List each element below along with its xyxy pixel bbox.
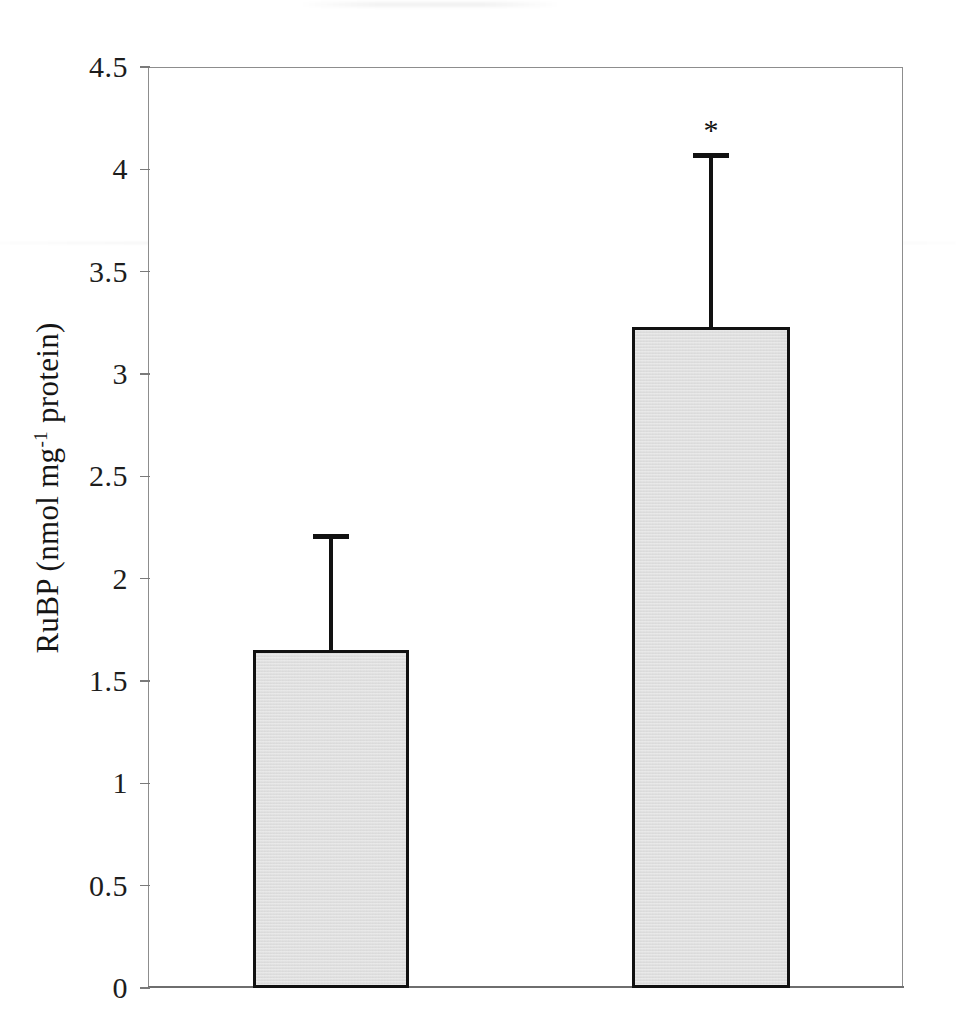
y-axis-tick-label: 2.5 [8,461,128,491]
y-axis-tick [140,66,150,68]
y-axis-tick [140,373,150,375]
y-axis-tick [140,476,150,478]
y-axis-tick-label: 4 [8,154,128,184]
y-axis-tick [140,578,150,580]
significance-marker-2: * [691,115,731,145]
y-axis-tick [140,885,150,887]
y-axis-tick [140,680,150,682]
y-axis-tick-label: 3 [8,359,128,389]
y-axis-tick-label: 0 [8,973,128,1003]
y-axis-tick [140,271,150,273]
y-axis-tick [140,987,150,989]
y-axis-tick-label: 1.5 [8,666,128,696]
y-axis-tick-label: 3.5 [8,257,128,287]
scan-artifact-smudge [300,2,560,7]
error-bar-stem-1 [329,534,333,651]
y-axis-tick-label: 4.5 [8,52,128,82]
y-axis-tick-label: 0.5 [8,871,128,901]
y-axis-title-superscript: -1 [30,431,51,448]
bar-2 [632,327,790,988]
y-axis-tick-label: 1 [8,768,128,798]
chart-figure: RuBP (nmol mg-1 protein) 00.511.522.533.… [0,0,956,1036]
y-axis-tick [140,169,150,171]
y-axis-tick [140,783,150,785]
bar-1 [253,650,409,988]
error-bar-cap-2 [693,153,729,158]
error-bar-stem-2 [709,153,713,327]
error-bar-cap-1 [313,534,349,539]
y-axis-tick-label: 2 [8,564,128,594]
